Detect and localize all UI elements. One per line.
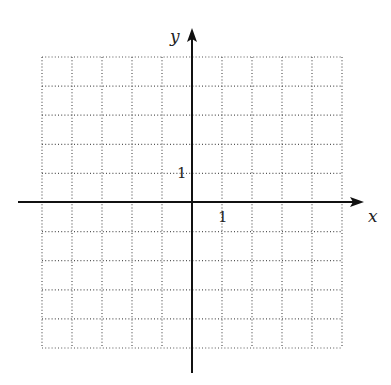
x-axis-label: x [368, 206, 378, 226]
coordinate-plane: x y 1 1 [0, 0, 391, 385]
y-axis-label: y [169, 26, 180, 46]
x-tick-label: 1 [218, 208, 228, 226]
y-tick-label: 1 [177, 164, 187, 182]
